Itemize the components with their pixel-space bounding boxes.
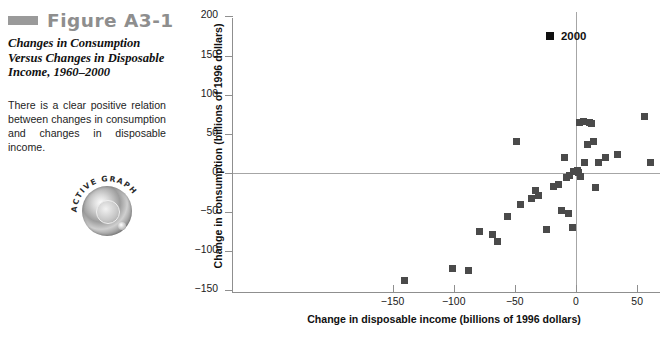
data-point <box>565 210 572 217</box>
legend-label: 2000 <box>561 30 586 42</box>
data-point <box>590 138 597 145</box>
data-point <box>588 120 595 127</box>
scatter-chart: −150−100−50050100150200 −150−100−5005010… <box>178 0 670 342</box>
legend-marker-icon <box>546 32 554 40</box>
active-graph-badge[interactable]: ACTIVE GRAPH <box>70 172 144 246</box>
data-point <box>543 226 550 233</box>
x-tick <box>393 285 394 293</box>
data-point <box>647 159 654 166</box>
x-tick-label: 50 <box>615 296 659 307</box>
y-tick <box>225 16 233 17</box>
data-point <box>614 151 621 158</box>
data-point <box>489 231 496 238</box>
y-axis-title: Change in consumption (billions of 1996 … <box>212 6 224 286</box>
cd-inner-ring <box>96 200 120 224</box>
data-point <box>401 277 408 284</box>
y-tick <box>225 95 233 96</box>
x-axis-title: Change in disposable income (billions of… <box>228 313 660 325</box>
chart-legend: 2000 <box>546 30 586 42</box>
x-tick-label: −100 <box>432 296 476 307</box>
x-tick <box>576 285 577 293</box>
data-point <box>513 138 520 145</box>
data-point <box>581 159 588 166</box>
figure-header: Figure A3-1 <box>8 10 174 31</box>
figure-rule-decoration <box>8 16 38 25</box>
data-point <box>476 228 483 235</box>
data-point <box>641 113 648 120</box>
figure-caption: There is a clear positive relation betwe… <box>8 98 166 154</box>
data-point <box>569 224 576 231</box>
data-point <box>555 181 562 188</box>
figure-number: Figure A3-1 <box>47 10 174 31</box>
x-tick <box>454 285 455 293</box>
y-tick <box>225 173 233 174</box>
x-axis-line <box>232 292 660 293</box>
y-tick <box>225 251 233 252</box>
data-point <box>517 201 524 208</box>
y-tick <box>225 212 233 213</box>
x-tick <box>637 285 638 293</box>
data-point <box>494 238 501 245</box>
y-tick <box>225 134 233 135</box>
data-point <box>595 159 602 166</box>
data-point <box>602 154 609 161</box>
data-point <box>561 154 568 161</box>
data-point <box>535 192 542 199</box>
data-point <box>504 213 511 220</box>
x-tick-label: 0 <box>554 296 598 307</box>
x-tick <box>515 285 516 293</box>
cd-center-hole <box>118 222 126 230</box>
data-point <box>449 265 456 272</box>
data-point <box>558 207 565 214</box>
y-tick <box>225 290 233 291</box>
figure-description-panel: Figure A3-1 Changes in Consumption Versu… <box>0 0 178 342</box>
zero-vertical-reference-line <box>576 12 577 293</box>
x-tick-label: −150 <box>371 296 415 307</box>
x-tick-label: −50 <box>493 296 537 307</box>
data-point <box>577 173 584 180</box>
data-point <box>465 267 472 274</box>
y-tick <box>225 56 233 57</box>
zero-horizontal-reference-line <box>225 173 660 174</box>
data-point <box>592 184 599 191</box>
page-bottom-margin <box>0 330 670 342</box>
figure-title: Changes in Consumption Versus Changes in… <box>8 36 168 80</box>
cd-disc-icon <box>82 186 132 236</box>
